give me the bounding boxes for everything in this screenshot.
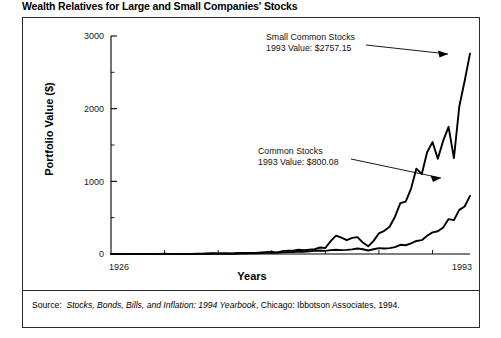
source-label: Source: [32, 300, 62, 310]
y-tick-label: 0 [99, 249, 104, 259]
annotation-large-arrow-line [351, 159, 441, 178]
plot-area: 010002000300019261993Small Common Stocks… [23, 18, 481, 288]
series-line-common-stocks [111, 196, 470, 254]
figure-box: 010002000300019261993Small Common Stocks… [22, 17, 480, 328]
annotation-small-line2: 1993 Value: $2757.15 [266, 43, 352, 53]
y-axis-title: Portfolio Value ($) [43, 59, 55, 199]
annotation-small-arrow-head [438, 51, 448, 58]
figure-title: Wealth Relatives for Large and Small Com… [22, 0, 297, 12]
chart-svg: 010002000300019261993Small Common Stocks… [23, 18, 481, 288]
annotation-large-line2: 1993 Value: $800.08 [258, 157, 339, 167]
source-publisher: , Chicago: Ibbotson Associates, 1994. [256, 300, 400, 310]
source-note: Source: Stocks, Bonds, Bills, and Inflat… [32, 300, 400, 310]
figure-root: Wealth Relatives for Large and Small Com… [0, 0, 501, 338]
annotation-small-arrow-line [366, 45, 448, 54]
y-tick-label: 3000 [84, 31, 104, 41]
x-axis-title: Years [23, 270, 481, 282]
annotation-small-line1: Small Common Stocks [266, 32, 356, 42]
source-title: Stocks, Bonds, Bills, and Inflation: 199… [66, 300, 256, 310]
footer-divider [23, 290, 479, 291]
y-tick-label: 2000 [84, 104, 104, 114]
annotation-large-line1: Common Stocks [258, 146, 323, 156]
y-tick-label: 1000 [84, 177, 104, 187]
